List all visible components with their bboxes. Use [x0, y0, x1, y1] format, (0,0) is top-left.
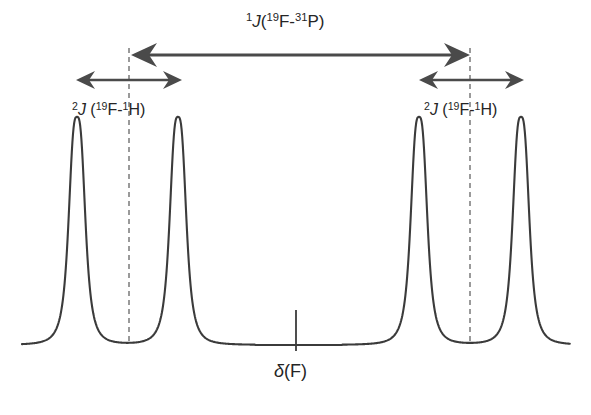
label-chemical-shift: δ(F): [274, 362, 307, 380]
label-coupling-small-right: 2J (19F-1H): [424, 101, 497, 118]
label-coupling-small-left-nuc1-mass: 19: [96, 100, 108, 112]
label-coupling-large-nuc1-mass: 19: [266, 11, 278, 23]
label-coupling-large-nuc2: P: [307, 12, 318, 31]
label-coupling-small-right-nuc1-mass: 19: [448, 100, 460, 112]
spectrum-canvas: [0, 0, 591, 415]
label-coupling-small-left-nuc1: F: [107, 101, 117, 118]
dashed-guide-group: [129, 48, 470, 345]
label-coupling-small-left-j: J: [78, 101, 86, 118]
arrow-small-coupling-right: [419, 71, 524, 89]
label-coupling-large-nuc1: F: [279, 12, 289, 31]
label-coupling-small-right-nuc1: F: [459, 101, 469, 118]
coupling-arrow-group: [76, 43, 524, 89]
label-coupling-small-left: 2J (19F-1H): [72, 101, 145, 118]
label-coupling-large-j: J: [252, 12, 261, 31]
label-coupling-large-nuc2-mass: 31: [295, 11, 307, 23]
nmr-spectrum-figure: 1J(19F-31P) 2J (19F-1H) 2J (19F-1H) δ(F): [0, 0, 591, 415]
label-coupling-small-right-close-paren: ): [492, 101, 497, 118]
label-coupling-small-left-nuc2: H: [128, 101, 140, 118]
label-coupling-small-right-j: J: [430, 101, 438, 118]
arrow-large-coupling: [131, 43, 470, 67]
label-chemical-shift-delta: δ: [274, 361, 284, 381]
label-coupling-large: 1J(19F-31P): [246, 12, 324, 30]
label-coupling-small-left-close-paren: ): [140, 101, 145, 118]
label-coupling-small-right-nuc2: H: [480, 101, 492, 118]
label-chemical-shift-nucleus: (F): [284, 361, 307, 381]
label-coupling-large-close-paren: ): [319, 12, 325, 31]
